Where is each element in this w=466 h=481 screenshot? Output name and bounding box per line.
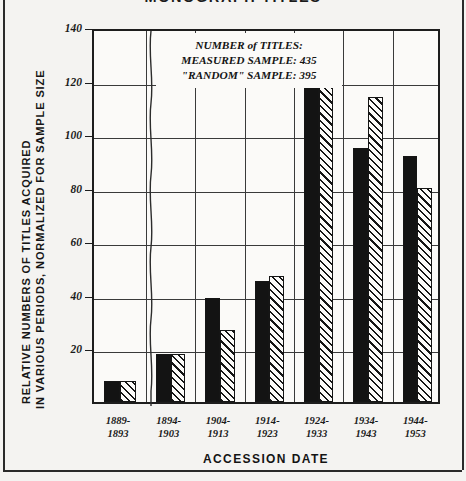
bar-hatched-6 [417,188,432,402]
plot-area: NUMBER of TITLES: MEASURED SAMPLE: 435 "… [92,29,440,404]
x-tick-label-line: 1923 [243,427,292,440]
bar-hatched-1 [171,354,186,402]
x-tick-label-line: 1904- [193,414,242,427]
page-border-right [462,0,464,470]
x-axis-title: ACCESSION DATE [92,452,440,466]
y-tick-100 [85,136,92,137]
annotation-box: NUMBER of TITLES: MEASURED SAMPLE: 435 "… [156,33,342,88]
bar-solid-black-6 [403,156,418,402]
y-tick-140 [85,29,92,30]
bar-hatched-3 [269,276,284,402]
bar-hatched-2 [220,330,235,402]
x-tick-label-line: 1913 [193,427,242,440]
x-tick-label-6: 1944-1953 [391,414,440,440]
x-tick-label-0: 1889-1893 [92,414,144,440]
x-tick-label-line: 1914- [243,414,292,427]
bar-hatched-5 [368,97,383,402]
x-tick-label-line: 1893 [92,427,144,440]
category-separator-6 [393,31,394,402]
y-tick-label-80: 80 [38,183,82,195]
y-tick-label-120: 120 [38,76,82,88]
x-tick-label-5: 1934-1943 [341,414,390,440]
y-tick-80 [85,190,92,191]
x-tick-label-line: 1953 [391,427,440,440]
y-tick-20 [85,350,92,351]
bar-hatched-4 [319,38,334,402]
bar-solid-black-1 [156,354,171,402]
bar-solid-black-2 [205,298,220,402]
y-tick-label-20: 20 [38,343,82,355]
x-tick-label-line: 1934- [341,414,390,427]
x-axis-tick-labels: 1889-18931894-19031904-19131914-19231924… [92,410,440,450]
x-tick-label-3: 1914-1923 [243,414,292,440]
annotation-line-3: "RANDOM" SAMPLE: 395 [160,68,338,83]
y-tick-40 [85,297,92,298]
x-tick-label-2: 1904-1913 [193,414,242,440]
annotation-line-2: MEASURED SAMPLE: 435 [160,53,338,68]
axis-break-squiggle [146,31,156,402]
x-tick-label-1: 1894-1903 [144,414,193,440]
category-separator-1 [146,31,147,402]
y-tick-label-60: 60 [38,236,82,248]
x-tick-label-line: 1894- [144,414,193,427]
x-tick-label-line: 1924- [292,414,341,427]
x-tick-label-line: 1943 [341,427,390,440]
bar-solid-black-0 [104,381,120,402]
x-tick-label-line: 1933 [292,427,341,440]
category-separator-5 [343,31,344,402]
x-tick-label-line: 1944- [391,414,440,427]
y-tick-label-100: 100 [38,129,82,141]
bar-solid-black-5 [353,148,368,402]
x-tick-label-line: 1889- [92,414,144,427]
bar-hatched-0 [120,381,136,402]
y-axis: 20406080100120140 [0,0,92,481]
y-tick-label-40: 40 [38,290,82,302]
x-tick-label-4: 1924-1933 [292,414,341,440]
annotation-line-1: NUMBER of TITLES: [160,38,338,53]
y-tick-60 [85,243,92,244]
bar-solid-black-4 [304,46,319,402]
x-tick-label-line: 1903 [144,427,193,440]
bar-solid-black-3 [255,281,270,402]
y-tick-label-140: 140 [38,22,82,34]
y-tick-120 [85,83,92,84]
